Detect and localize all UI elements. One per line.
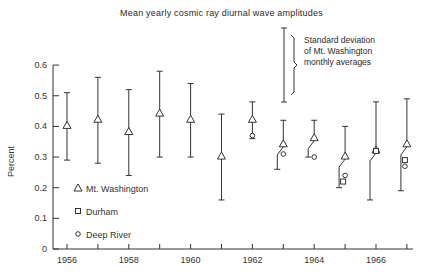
sd-annotation: Standard deviation of Mt. Washington mon… — [304, 35, 375, 68]
axes — [53, 65, 413, 249]
y-tick-label: 0.1 — [34, 213, 47, 223]
y-axis-label-text: Percent — [6, 146, 16, 178]
triangle-marker — [156, 109, 164, 116]
y-tick-label: 0.6 — [34, 60, 47, 70]
circle-marker — [312, 155, 317, 160]
y-tick-label: 0 — [42, 244, 47, 254]
sd-annotation-line-3: monthly averages — [304, 57, 375, 68]
triangle-marker — [310, 134, 318, 141]
triangle-marker — [74, 184, 82, 191]
curly-brace-icon — [291, 35, 297, 95]
triangle-marker — [94, 115, 102, 122]
circle-marker — [281, 152, 286, 157]
legend-label: Durham — [86, 207, 118, 217]
x-tick-label: 1960 — [181, 255, 201, 265]
y-tick-label: 0.4 — [34, 121, 47, 131]
y-tick-label: 0.3 — [34, 152, 47, 162]
y-tick-label: 0.2 — [34, 183, 47, 193]
data-markers — [63, 109, 411, 184]
triangle-marker — [63, 121, 71, 128]
square-marker — [402, 158, 407, 163]
y-axis-label: Percent — [6, 146, 16, 178]
legend: Mt. WashingtonDurhamDeep River — [74, 184, 148, 240]
circle-marker — [403, 164, 408, 169]
legend-label: Deep River — [86, 230, 131, 240]
triangle-marker — [279, 140, 287, 147]
triangle-marker — [248, 115, 256, 122]
error-bars — [64, 71, 410, 200]
x-tick-label: 1958 — [119, 255, 139, 265]
triangle-marker — [187, 115, 195, 122]
legend-item-square — [76, 209, 81, 214]
circle-marker — [343, 173, 348, 178]
triangle-marker — [341, 152, 349, 159]
sd-bracket — [281, 28, 297, 102]
circle-marker — [76, 232, 81, 237]
triangle-marker — [218, 152, 226, 159]
square-marker — [374, 148, 379, 153]
legend-item-triangle — [74, 184, 82, 191]
x-tick-label: 1956 — [57, 255, 77, 265]
legend-label: Mt. Washington — [86, 184, 148, 194]
x-tick-label: 1964 — [304, 255, 324, 265]
x-tick-label: 1962 — [242, 255, 262, 265]
sd-annotation-line-2: of Mt. Washington — [304, 46, 375, 57]
square-marker — [341, 179, 346, 184]
circle-marker — [250, 133, 255, 138]
x-tick-label: 1966 — [366, 255, 386, 265]
legend-item-circle — [76, 232, 81, 237]
y-tick-label: 0.5 — [34, 91, 47, 101]
square-marker — [76, 209, 81, 214]
triangle-marker — [403, 140, 411, 147]
sd-annotation-line-1: Standard deviation — [304, 35, 375, 46]
triangle-marker — [125, 128, 133, 135]
